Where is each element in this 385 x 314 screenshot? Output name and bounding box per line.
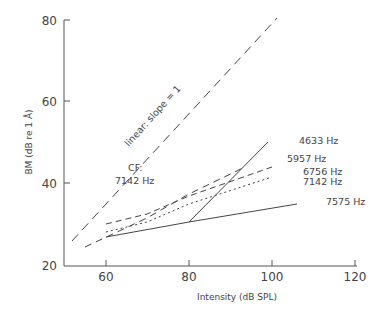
chart: 80 60 40 20 60 80 100 120 Intensity (dB … <box>0 0 385 314</box>
x-tick-60: 60 <box>98 270 113 284</box>
series-5957 <box>85 167 245 247</box>
cf-freq-label: 7142 Hz <box>115 175 154 186</box>
x-tick-80: 80 <box>181 270 196 284</box>
label-5957: 5957 Hz <box>287 153 326 164</box>
label-4633: 4633 Hz <box>299 135 338 146</box>
linear-label: linear: slope = 1 <box>122 83 183 149</box>
y-tick-80: 80 <box>42 14 57 28</box>
y-tick-60: 60 <box>42 95 57 109</box>
x-tick-120: 120 <box>344 270 367 284</box>
label-7142: 7142 Hz <box>303 176 342 187</box>
y-tick-40: 40 <box>42 177 57 191</box>
y-axis-title: BM (dB re 1 Å) <box>23 109 34 174</box>
label-7575: 7575 Hz <box>326 196 365 207</box>
series-4633 <box>189 142 268 222</box>
y-tick-20: 20 <box>42 259 57 273</box>
x-tick-100: 100 <box>261 270 284 284</box>
series-linear <box>72 18 277 241</box>
x-axis-title: Intensity (dB SPL) <box>197 292 277 302</box>
cf-label: CF: <box>128 162 143 173</box>
